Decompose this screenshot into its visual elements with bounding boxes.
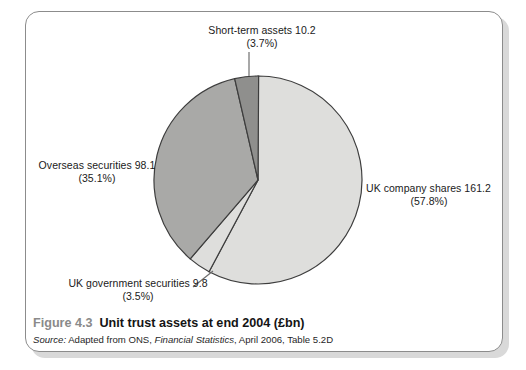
pie-label-uk-government-securities: UK government securities 9.8 (3.5%) [55, 277, 221, 303]
figure-source-text-2: , April 2006, Table 5.2D [234, 334, 333, 345]
figure-source-line: Source: Adapted from ONS, Financial Stat… [33, 333, 473, 346]
pie-label-overseas-securities-percent: (35.1%) [33, 172, 161, 185]
figure-caption-spacer [93, 316, 100, 330]
pie-label-short-term-assets: Short-term assets 10.2 (3.7%) [192, 24, 332, 50]
pie-label-uk-company-shares-value: UK company shares 161.2 [366, 182, 516, 195]
pie-label-overseas-securities-value: Overseas securities 98.1 [33, 159, 161, 172]
pie-label-short-term-assets-value: Short-term assets 10.2 [192, 24, 332, 37]
figure-source-publication: Financial Statistics [155, 334, 234, 345]
figure-container: Short-term assets 10.2 (3.7%) Overseas s… [0, 0, 526, 370]
pie-label-uk-government-securities-value: UK government securities 9.8 [55, 277, 221, 290]
figure-caption: Figure 4.3 Unit trust assets at end 2004… [33, 315, 473, 346]
pie-label-uk-government-securities-percent: (3.5%) [55, 290, 221, 303]
figure-source-text-1: Adapted from ONS, [66, 334, 155, 345]
figure-caption-title: Figure 4.3 Unit trust assets at end 2004… [33, 315, 473, 331]
pie-label-short-term-assets-percent: (3.7%) [192, 37, 332, 50]
pie-label-uk-company-shares: UK company shares 161.2 (57.8%) [366, 182, 516, 208]
figure-title-text: Unit trust assets at end 2004 (£bn) [100, 316, 305, 330]
pie-label-uk-company-shares-percent: (57.8%) [366, 195, 492, 208]
figure-number: Figure 4.3 [33, 316, 93, 330]
figure-source-label: Source: [33, 334, 66, 345]
pie-label-overseas-securities: Overseas securities 98.1 (35.1%) [33, 159, 161, 185]
